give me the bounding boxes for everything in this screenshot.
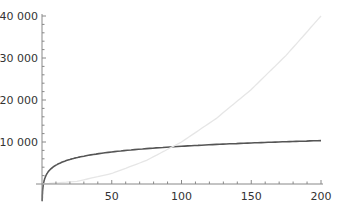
plot-curves xyxy=(42,16,321,201)
line-chart: 10 00020 00030 00040 00050100150200 xyxy=(0,0,338,210)
y-tick-label: 30 000 xyxy=(0,52,38,65)
axes: 10 00020 00030 00040 00050100150200 xyxy=(0,10,332,203)
y-tick-label: 20 000 xyxy=(0,94,38,107)
y-tick-label: 40 000 xyxy=(0,10,38,23)
x-tick-label: 100 xyxy=(171,190,192,203)
quadratic-curve xyxy=(42,16,321,184)
x-tick-label: 200 xyxy=(311,190,332,203)
x-tick-label: 150 xyxy=(241,190,262,203)
y-tick-label: 10 000 xyxy=(0,136,38,149)
x-tick-label: 50 xyxy=(105,190,119,203)
